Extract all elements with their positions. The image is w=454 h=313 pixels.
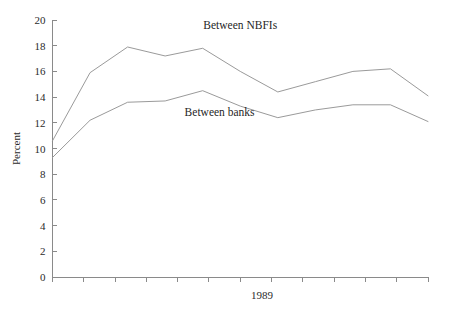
chart-container: 02468101214161820 Between NBFIsBetween b…: [0, 0, 454, 313]
series-line-between-banks: [53, 91, 429, 158]
y-tick-label: 16: [35, 65, 47, 77]
y-tick-label: 20: [35, 14, 47, 26]
y-tick-label: 18: [35, 40, 47, 52]
y-tick-label: 6: [40, 194, 46, 206]
series-label-between-banks: Between banks: [185, 106, 255, 118]
line-chart: 02468101214161820 Between NBFIsBetween b…: [0, 0, 454, 313]
x-axis-ticks: [53, 277, 429, 282]
y-tick-label: 12: [35, 117, 46, 129]
y-tick-label: 0: [40, 271, 46, 283]
chart-axes: [53, 20, 429, 277]
y-tick-label: 2: [40, 245, 46, 257]
y-tick-label: 8: [40, 168, 46, 180]
y-tick-label: 14: [35, 91, 47, 103]
y-tick-label: 4: [40, 220, 46, 232]
x-axis-center-label: 1989: [251, 289, 274, 301]
y-tick-label: 10: [35, 143, 47, 155]
series-line-between-nbfis: [53, 47, 429, 141]
series-lines: [53, 47, 429, 158]
series-annotations: Between NBFIsBetween banks: [185, 19, 278, 118]
y-axis-title: Percent: [10, 132, 22, 165]
y-axis-ticks: 02468101214161820: [35, 14, 57, 283]
series-label-between-nbfis: Between NBFIs: [203, 19, 277, 31]
